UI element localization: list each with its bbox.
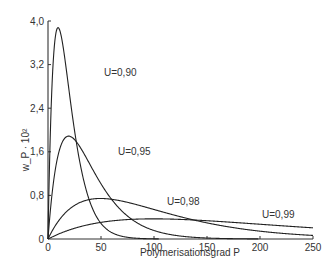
y-tick-label: 3,2 [30, 59, 44, 70]
curve-label: U=0,95 [118, 146, 151, 157]
curve-label: U=0,90 [104, 67, 137, 78]
curve-labels: U=0,90U=0,95U=0,98U=0,99 [104, 67, 295, 220]
y-tick-label: 2,4 [30, 103, 44, 114]
y-axis-title-text: w_P · 10² [20, 128, 31, 172]
y-tick-label: 1,6 [30, 146, 44, 157]
x-tick-label: 0 [45, 242, 51, 253]
x-tick-label: 250 [305, 242, 322, 253]
x-tick-label: 50 [95, 242, 107, 253]
y-axis-title: w_P · 10² [20, 128, 31, 172]
y-tick-label: 4,0 [30, 16, 44, 27]
curve-095 [48, 136, 258, 239]
x-tick-label: 200 [252, 242, 269, 253]
curve-090 [48, 28, 159, 239]
y-tick-label: 0 [38, 234, 44, 245]
x-axis-title: Polymerisationsgrad P [140, 247, 240, 258]
curves [48, 28, 313, 239]
curve-label: U=0,98 [167, 196, 200, 207]
y-tick-label: 0,8 [30, 190, 44, 201]
curve-label: U=0,99 [262, 209, 295, 220]
chart: 00,81,62,43,24,0 050100150200250 U=0,90U… [0, 0, 336, 277]
